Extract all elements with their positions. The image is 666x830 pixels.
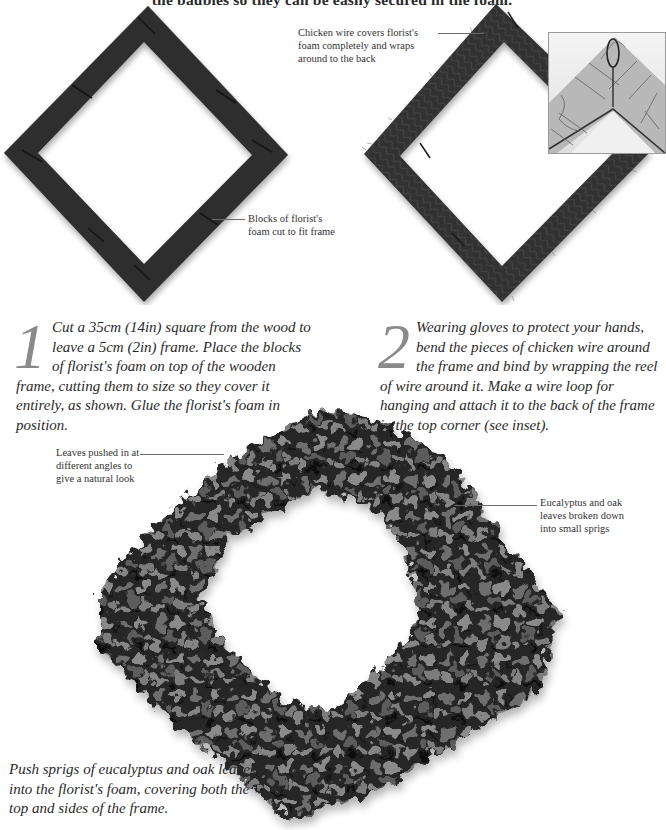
step-3: 3 Push sprigs of eucalyptus and oak leav… [0, 760, 264, 819]
leader-line-foam-blocks [212, 219, 245, 220]
step-text: Push sprigs of eucalyptus and oak leaves… [8, 760, 264, 819]
callout-leaves-angles: Leaves pushed in at different angles to … [56, 446, 139, 485]
callout-line: Leaves pushed in at [56, 446, 139, 459]
callout-line: foam cut to fit frame [248, 225, 335, 238]
callout-chicken-wire: Chicken wire covers florist's foam compl… [298, 26, 418, 65]
callout-line: around to the back [298, 52, 418, 65]
callout-foam-blocks: Blocks of florist's foam cut to fit fram… [248, 212, 335, 238]
callout-line: Blocks of florist's [248, 212, 335, 225]
callout-line: different angles to [56, 459, 139, 472]
foam-frame-illustration [0, 0, 300, 305]
callout-line: into small sprigs [540, 522, 624, 535]
callout-line: foam completely and wraps [298, 39, 418, 52]
step-number: 2 [378, 320, 410, 374]
callout-line: Chicken wire covers florist's [298, 26, 418, 39]
leader-line-leaves-angles [140, 454, 224, 455]
callout-line: Eucalyptus and oak [540, 496, 624, 509]
step-number: 1 [14, 320, 46, 374]
callout-line: leaves broken down [540, 509, 624, 522]
leader-line-chicken-wire [438, 33, 484, 34]
callout-line: give a natural look [56, 472, 139, 485]
leader-line-eucalyptus [455, 505, 537, 506]
callout-eucalyptus: Eucalyptus and oak leaves broken down in… [540, 496, 624, 535]
inset-closeup-wire-loop [548, 32, 666, 154]
